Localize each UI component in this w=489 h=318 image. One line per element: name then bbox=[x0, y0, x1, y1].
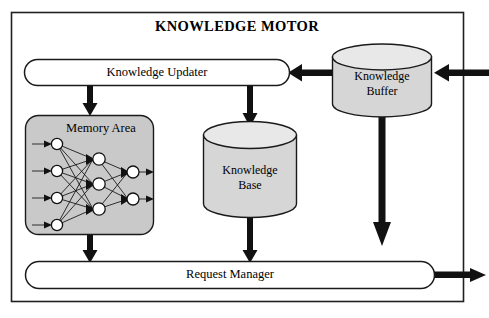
arrow-base-to-request-manager bbox=[243, 218, 258, 263]
memory-area-label: Memory Area bbox=[66, 121, 136, 135]
arrow-buffer-to-updater bbox=[288, 64, 338, 82]
knowledge-base-label-line2: Base bbox=[238, 178, 261, 192]
arrow-updater-to-memory bbox=[83, 84, 98, 116]
request-manager-label: Request Manager bbox=[186, 267, 275, 281]
node-request-manager[interactable]: Request Manager bbox=[26, 262, 435, 289]
node-memory-area[interactable]: Memory Area bbox=[26, 116, 155, 235]
arrow-updater-to-base bbox=[243, 84, 258, 127]
arrow-buffer-to-request-manager bbox=[373, 117, 391, 246]
knowledge-updater-label: Knowledge Updater bbox=[106, 65, 208, 79]
knowledge-base-label-line1: Knowledge bbox=[222, 163, 277, 177]
arrow-external-input-to-buffer bbox=[434, 64, 489, 82]
node-knowledge-updater[interactable]: Knowledge Updater bbox=[25, 60, 290, 86]
node-knowledge-buffer[interactable]: Knowledge Buffer bbox=[333, 44, 432, 117]
page-title: KNOWLEDGE MOTOR bbox=[155, 18, 319, 34]
arrow-memory-to-request-manager bbox=[83, 234, 98, 263]
knowledge-buffer-label-line2: Buffer bbox=[366, 84, 397, 98]
diagram-canvas: KNOWLEDGE MOTOR bbox=[0, 0, 489, 318]
knowledge-motor-diagram: KNOWLEDGE MOTOR bbox=[0, 0, 489, 318]
node-knowledge-base[interactable]: Knowledge Base bbox=[204, 122, 297, 218]
knowledge-buffer-label-line1: Knowledge bbox=[354, 69, 409, 83]
